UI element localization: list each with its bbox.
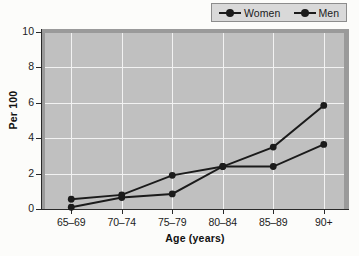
- y-axis-tick: [36, 174, 41, 175]
- legend-entry-men: Men: [294, 7, 340, 19]
- legend-label-women: Women: [244, 7, 281, 19]
- y-axis-tick-label: 2: [12, 167, 34, 179]
- gridline-vertical: [223, 33, 224, 209]
- y-axis-title: Per 100: [7, 80, 19, 140]
- x-axis-tick-label: 90+: [294, 216, 354, 228]
- gridline-horizontal: [45, 67, 344, 68]
- line-marker-icon: [294, 8, 316, 17]
- x-axis-tick: [324, 210, 325, 214]
- chart-figure: Women Men 024681065–6970–7475–7980–8485–…: [0, 0, 359, 256]
- gridline-vertical: [172, 33, 173, 209]
- legend-entry-women: Women: [219, 7, 281, 19]
- x-axis-tick: [172, 210, 173, 214]
- y-axis-tick: [36, 32, 41, 33]
- x-axis-tick: [223, 210, 224, 214]
- y-axis-tick: [36, 138, 41, 139]
- legend-label-men: Men: [319, 7, 340, 19]
- y-axis-tick: [36, 67, 41, 68]
- gridline-vertical: [324, 33, 325, 209]
- y-axis-line: [41, 29, 42, 210]
- gridline-horizontal: [45, 174, 344, 175]
- x-axis-tick: [71, 210, 72, 214]
- gridline-horizontal: [45, 103, 344, 104]
- chart-legend: Women Men: [211, 3, 347, 22]
- y-axis-tick-label: 10: [12, 25, 34, 37]
- x-axis-title: Age (years): [41, 232, 349, 244]
- line-marker-icon: [219, 8, 241, 17]
- x-axis-line: [41, 209, 349, 210]
- gridline-vertical: [71, 33, 72, 209]
- gridline-horizontal: [45, 138, 344, 139]
- y-axis-tick-label: 0: [12, 202, 34, 214]
- x-axis-tick: [122, 210, 123, 214]
- gridline-vertical: [122, 33, 123, 209]
- y-axis-tick-label: 8: [12, 60, 34, 72]
- y-axis-tick: [36, 209, 41, 210]
- gridline-vertical: [273, 33, 274, 209]
- plot-area: [45, 33, 344, 209]
- x-axis-tick: [273, 210, 274, 214]
- y-axis-tick: [36, 103, 41, 104]
